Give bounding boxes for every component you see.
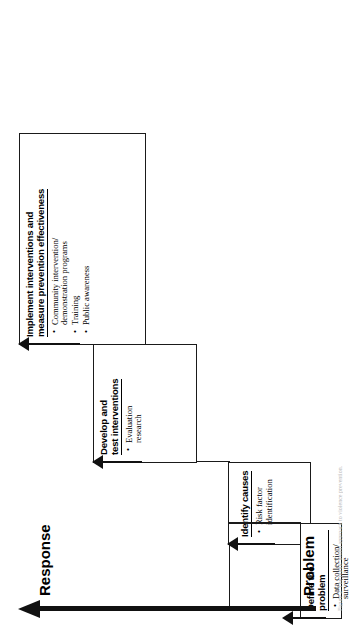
step-arrow-implement-interventions <box>18 337 80 351</box>
problem-response-axis-arrow <box>18 606 318 611</box>
step-box-identify-causes[interactable]: Identify causes Risk factor identificati… <box>228 462 311 545</box>
step-arrow-identify-causes <box>227 537 275 551</box>
bullet-item: Evaluation research <box>125 351 144 443</box>
step-bullets-identify-causes: Risk factor identification <box>255 469 274 537</box>
step-title-develop-test-interventions: Develop and test interventions <box>99 379 122 455</box>
step-arrow-define-the-problem <box>282 611 326 625</box>
bullet-item: Public awareness <box>82 140 92 325</box>
axis-label-problem: Problem <box>300 536 317 596</box>
step-bullets-develop-test-interventions: Evaluation research <box>125 351 144 455</box>
step-box-develop-test-interventions[interactable]: Develop and test interventions Evaluatio… <box>93 344 197 463</box>
step-arrow-develop-test-interventions <box>92 455 142 469</box>
step-box-implement-interventions[interactable]: Implement interventions and measure prev… <box>19 133 146 345</box>
stair-riser-0 <box>229 522 301 523</box>
step-bullets-implement-interventions: Community intervention/ demonstration pr… <box>51 140 92 337</box>
bullet-item: Risk factor identification <box>255 469 274 525</box>
step-title-implement-interventions: Implement interventions and measure prev… <box>25 189 48 337</box>
bullet-item: Community intervention/ demonstration pr… <box>51 140 70 325</box>
axis-shaft <box>34 606 316 611</box>
axis-label-response: Response <box>36 524 53 596</box>
bullet-item: Training <box>71 140 81 325</box>
step-title-identify-causes: Identify causes <box>240 471 252 537</box>
figure-caption: Figure 2. The public health approach to … <box>337 191 343 611</box>
